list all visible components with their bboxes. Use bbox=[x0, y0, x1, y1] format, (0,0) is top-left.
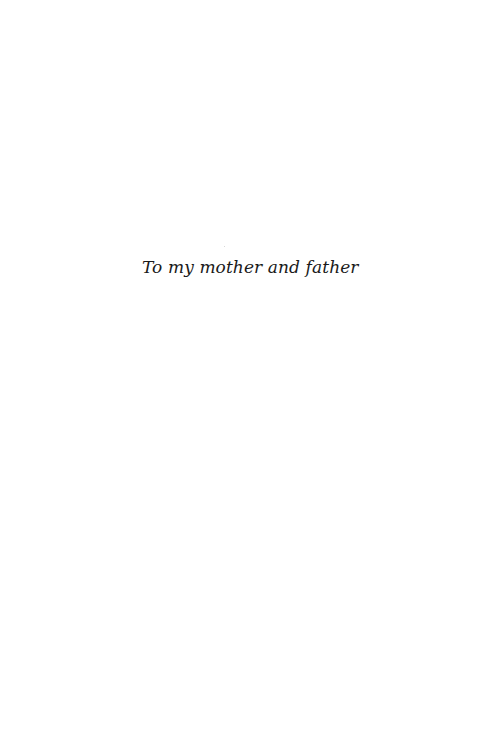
paper-speck bbox=[224, 246, 225, 247]
dedication-text: To my mother and father bbox=[142, 257, 359, 277]
book-page: To my mother and father bbox=[0, 0, 484, 754]
